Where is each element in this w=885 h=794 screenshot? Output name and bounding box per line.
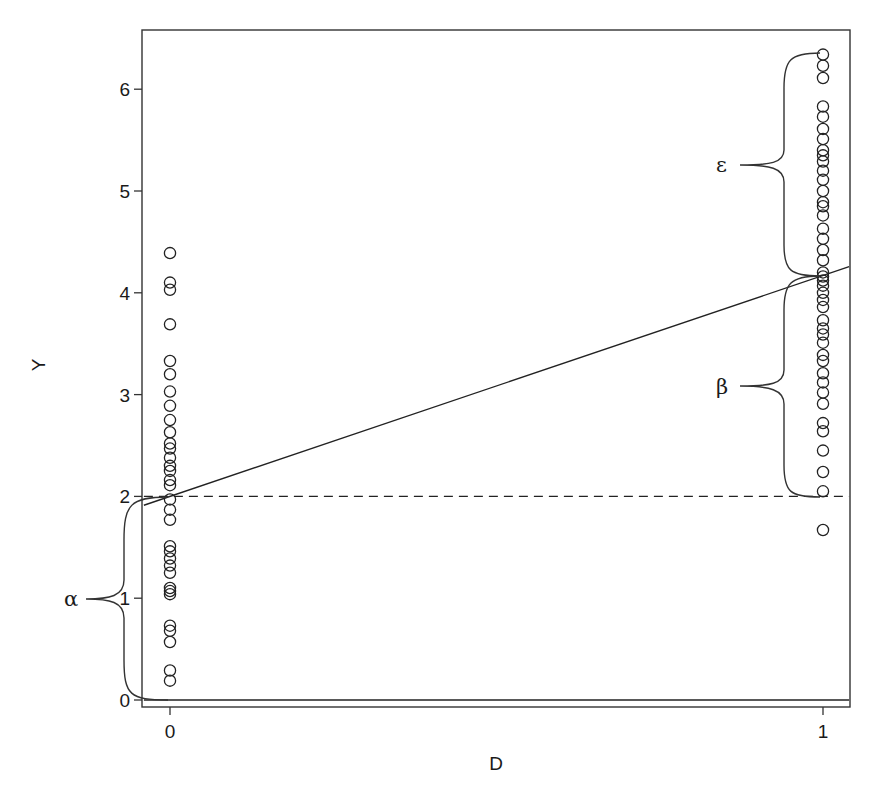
data-point: [164, 636, 175, 647]
data-point: [817, 233, 828, 244]
x-axis-title: D: [489, 753, 503, 774]
data-point: [164, 400, 175, 411]
data-point: [164, 567, 175, 578]
scatter-chart: 0123456 01 D Y α β ε: [0, 0, 885, 794]
data-point: [817, 486, 828, 497]
y-tick-label: 4: [119, 283, 130, 304]
beta-brace: [740, 276, 820, 497]
data-point: [164, 386, 175, 397]
y-axis: 0123456: [119, 79, 142, 711]
epsilon-label: ε: [716, 153, 727, 177]
data-point: [817, 60, 828, 71]
data-point: [817, 301, 828, 312]
x-tick-label: 1: [818, 721, 829, 742]
data-point: [817, 466, 828, 477]
data-point: [164, 504, 175, 515]
data-point: [164, 355, 175, 366]
data-point: [817, 72, 828, 83]
y-tick-label: 2: [119, 486, 130, 507]
data-point: [817, 123, 828, 134]
data-point: [164, 414, 175, 425]
data-point: [817, 185, 828, 196]
x-axis: 01: [165, 707, 829, 742]
data-point: [164, 319, 175, 330]
reference-lines: [144, 267, 849, 700]
data-point: [164, 369, 175, 380]
data-point: [164, 514, 175, 525]
data-point: [817, 223, 828, 234]
data-point: [817, 445, 828, 456]
data-point: [817, 111, 828, 122]
y-tick-label: 6: [119, 79, 130, 100]
y-tick-label: 5: [119, 181, 130, 202]
data-point: [817, 524, 828, 535]
data-points: [164, 49, 828, 686]
x-tick-label: 0: [165, 721, 176, 742]
data-point: [164, 665, 175, 676]
plot-frame: [142, 30, 850, 707]
y-tick-label: 0: [119, 690, 130, 711]
data-point: [817, 101, 828, 112]
alpha-label: α: [64, 587, 78, 611]
y-axis-title: Y: [28, 358, 49, 371]
data-point: [817, 387, 828, 398]
data-point: [164, 284, 175, 295]
y-tick-label: 3: [119, 385, 130, 406]
data-point: [817, 398, 828, 409]
epsilon-brace: [740, 53, 820, 276]
data-point: [817, 255, 828, 266]
data-point: [817, 337, 828, 348]
data-point: [817, 133, 828, 144]
beta-label: β: [716, 375, 728, 399]
data-point: [164, 247, 175, 258]
data-point: [164, 494, 175, 505]
data-point: [817, 49, 828, 60]
data-point: [817, 426, 828, 437]
data-point: [817, 244, 828, 255]
data-point: [164, 675, 175, 686]
data-point: [164, 427, 175, 438]
